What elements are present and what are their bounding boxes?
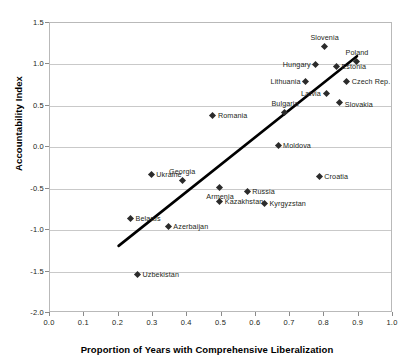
y-tick-mark — [45, 271, 49, 272]
data-point-marker[interactable] — [179, 177, 186, 184]
data-point-label: Hungary — [283, 60, 311, 69]
y-tick-mark — [45, 105, 49, 106]
gridline — [50, 230, 391, 231]
data-point-label: Latvia — [301, 89, 321, 98]
data-point-label: Poland — [345, 48, 368, 57]
data-point-label: Slovenia — [310, 33, 338, 42]
x-tick-mark — [118, 312, 119, 316]
y-tick-label: 1.0 — [4, 59, 44, 68]
data-point-marker[interactable] — [281, 109, 288, 116]
data-point-label: Lithuania — [271, 77, 301, 86]
plot-area: SloveniaPolandHungaryEstoniaLithuaniaCze… — [49, 22, 392, 312]
y-axis-title: Accountability Index — [13, 24, 24, 224]
data-point-marker[interactable] — [127, 215, 134, 222]
x-tick-label: 1.0 — [372, 318, 412, 327]
gridline — [50, 64, 391, 65]
data-point-marker[interactable] — [321, 43, 328, 50]
x-tick-mark — [255, 312, 256, 316]
data-point-marker[interactable] — [209, 112, 216, 119]
data-point-marker[interactable] — [165, 222, 172, 229]
data-point-label: Romania — [218, 111, 247, 120]
y-tick-label: 0.0 — [4, 142, 44, 151]
x-tick-mark — [289, 312, 290, 316]
data-point-marker[interactable] — [323, 90, 330, 97]
data-point-label: Belarus — [136, 214, 161, 223]
x-tick-mark — [186, 312, 187, 316]
data-point-label: Slovakia — [345, 100, 373, 109]
data-point-label: Estonia — [341, 62, 366, 71]
y-tick-label: -0.5 — [4, 184, 44, 193]
gridline — [50, 147, 391, 148]
scatter-plot-figure: Accountability Index Proportion of Years… — [0, 0, 414, 364]
data-point-marker[interactable] — [343, 78, 350, 85]
y-tick-mark — [45, 22, 49, 23]
x-tick-mark — [358, 312, 359, 316]
data-point-marker[interactable] — [316, 173, 323, 180]
data-point-label: Uzbekistan — [142, 270, 179, 279]
data-point-label: Moldova — [283, 141, 311, 150]
x-tick-mark — [83, 312, 84, 316]
data-point-label: Russia — [252, 187, 275, 196]
data-point-label: Kazakhstan — [225, 197, 264, 206]
gridline — [50, 106, 391, 107]
data-point-label: Kyrgyzstan — [269, 199, 306, 208]
y-tick-label: 1.5 — [4, 18, 44, 27]
data-point-marker[interactable] — [148, 171, 155, 178]
y-tick-label: -1.0 — [4, 225, 44, 234]
y-tick-mark — [45, 63, 49, 64]
y-tick-label: 0.5 — [4, 101, 44, 110]
gridline — [50, 272, 391, 273]
data-point-label: Croatia — [324, 172, 348, 181]
x-axis-title: Proportion of Years with Comprehensive L… — [0, 344, 414, 355]
y-tick-mark — [45, 188, 49, 189]
y-tick-mark — [45, 229, 49, 230]
data-point-label: Czech Rep. — [352, 77, 391, 86]
x-tick-mark — [152, 312, 153, 316]
data-point-marker[interactable] — [312, 61, 319, 68]
data-point-marker[interactable] — [302, 78, 309, 85]
data-point-label: Georgia — [169, 167, 195, 176]
y-tick-mark — [45, 146, 49, 147]
y-tick-label: -2.0 — [4, 308, 44, 317]
x-tick-mark — [392, 312, 393, 316]
data-point-marker[interactable] — [336, 99, 343, 106]
x-tick-mark — [49, 312, 50, 316]
x-tick-mark — [323, 312, 324, 316]
data-point-label: Azerbaijan — [173, 222, 208, 231]
x-tick-mark — [221, 312, 222, 316]
y-tick-label: -1.5 — [4, 267, 44, 276]
data-point-label: Bulgaria — [271, 99, 298, 108]
